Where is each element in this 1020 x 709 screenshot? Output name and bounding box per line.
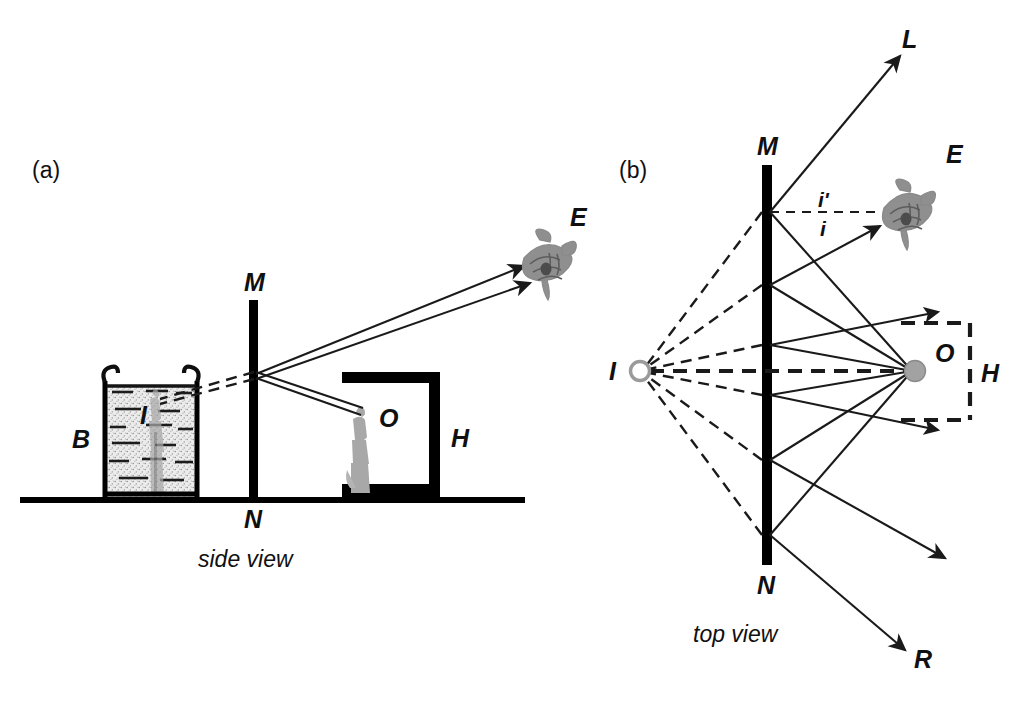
label-b-L: L <box>902 25 917 53</box>
label-b-I: I <box>609 357 617 385</box>
caption-b: top view <box>693 621 779 647</box>
label-a-O: O <box>379 404 399 432</box>
label-a-H: H <box>451 424 470 452</box>
image-point-I-panel-b <box>631 362 650 381</box>
label-a-I: I <box>140 401 148 429</box>
label-a-N: N <box>244 505 263 533</box>
label-b-i-prime: i' <box>818 188 830 211</box>
label-b-M: M <box>757 132 779 160</box>
label-b-H: H <box>981 359 1000 387</box>
figure-background <box>0 0 1020 709</box>
object-point-O-panel-b <box>905 361 926 382</box>
panel-a-tag: (a) <box>32 157 60 183</box>
label-a-E: E <box>570 203 588 231</box>
eye-pupil-panel-a <box>541 263 552 276</box>
label-b-N: N <box>757 571 776 599</box>
label-b-R: R <box>914 645 932 673</box>
mirror-MN-panel-a <box>249 300 258 500</box>
label-a-M: M <box>244 268 266 296</box>
label-b-O: O <box>935 339 955 367</box>
panel-a-ground-line <box>20 497 525 503</box>
optics-figure: (a) <box>0 0 1020 709</box>
mirror-MN-panel-b <box>762 165 772 565</box>
eye-pupil-panel-b <box>901 213 912 226</box>
figure-canvas: (a) <box>0 0 1020 709</box>
label-b-E: E <box>946 140 964 168</box>
caption-a: side view <box>198 546 294 572</box>
panel-b-tag: (b) <box>619 157 647 183</box>
label-a-B: B <box>72 425 90 453</box>
